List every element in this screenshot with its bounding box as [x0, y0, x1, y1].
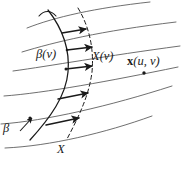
- label-beta-of-v: β(v): [36, 48, 56, 61]
- surface-parameter-lines: [1, 2, 180, 148]
- base-point-3: [65, 68, 68, 71]
- label-X: X: [57, 143, 65, 156]
- base-point-2: [66, 49, 69, 52]
- u-curve-4: [4, 67, 178, 96]
- figure-canvas: [0, 0, 184, 169]
- label-beta: β: [3, 122, 9, 135]
- vector-5: [46, 118, 79, 125]
- vector-1: [62, 29, 86, 33]
- beta-curve: [30, 10, 68, 140]
- geometry-figure: β(v) X(v) x(u, v) β X: [0, 0, 184, 169]
- beta-direction-arrow: [20, 118, 32, 131]
- vector-2: [67, 47, 92, 50]
- vector-3: [66, 66, 92, 69]
- beta-top-hook: [39, 12, 56, 17]
- surface-point-x-uv: [142, 71, 145, 74]
- label-x-arguments: (u, v): [133, 54, 159, 68]
- u-curve-1: [27, 2, 150, 28]
- beta-tip-point: [28, 116, 31, 119]
- label-X-of-v: X(v): [92, 50, 114, 63]
- label-x-of-u-v: x(u, v): [127, 55, 160, 68]
